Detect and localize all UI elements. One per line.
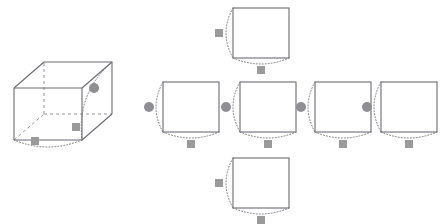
net-face-middle-1[interactable]	[144, 82, 219, 148]
net-face-middle-1-bottom-square-marker	[187, 140, 195, 148]
net-face-bottom-bottom-square-marker	[257, 216, 265, 224]
net-face-top-outline[interactable]	[233, 8, 289, 58]
net-face-middle-2-bottom-arc	[240, 132, 296, 138]
cube-arc-bottom	[14, 140, 82, 147]
net-face-middle-4-bottom-square-marker	[405, 140, 413, 148]
net-face-middle-3-bottom-arc	[315, 132, 371, 138]
wireframe-cube-group	[14, 62, 112, 147]
cube-hidden-edge-2	[14, 114, 44, 140]
net-face-bottom[interactable]	[215, 158, 289, 224]
cube-net-group	[144, 8, 437, 224]
net-face-middle-1-left-arc	[156, 82, 163, 132]
cube-arc-right	[81, 62, 112, 140]
net-face-middle-2[interactable]	[221, 82, 296, 148]
net-face-bottom-bottom-arc	[233, 208, 289, 214]
net-face-bottom-left-arc	[226, 158, 233, 208]
net-face-middle-1-bottom-arc	[163, 132, 219, 138]
net-face-middle-1-outline[interactable]	[163, 82, 219, 132]
net-face-middle-2-bottom-square-marker	[264, 140, 272, 148]
net-face-bottom-outline[interactable]	[233, 158, 289, 208]
cube-square-marker-right	[72, 123, 80, 131]
cube-net-diagram	[0, 0, 447, 224]
net-face-middle-4-left-arc	[374, 82, 381, 132]
net-face-top[interactable]	[215, 8, 289, 74]
net-face-middle-2-left-circle-marker	[221, 102, 231, 112]
cube-edge-6	[14, 62, 44, 88]
cube-edge-8	[82, 114, 112, 140]
net-face-middle-3-left-circle-marker	[296, 102, 306, 112]
net-face-middle-4-bottom-arc	[381, 132, 437, 138]
net-face-middle-3-bottom-square-marker	[339, 140, 347, 148]
diagram-canvas	[0, 0, 447, 224]
net-face-middle-4-outline[interactable]	[381, 82, 437, 132]
net-face-middle-2-left-arc	[233, 82, 240, 132]
net-face-top-left-arc	[226, 8, 233, 58]
cube-circle-marker	[89, 83, 99, 93]
net-face-top-bottom-arc	[233, 58, 289, 64]
net-face-middle-3-left-arc	[308, 82, 315, 132]
net-face-middle-2-outline[interactable]	[240, 82, 296, 132]
net-face-middle-1-left-circle-marker	[144, 102, 154, 112]
net-face-middle-4-left-circle-marker	[362, 102, 372, 112]
net-face-bottom-left-square-marker	[215, 179, 223, 187]
net-face-top-bottom-square-marker	[257, 66, 265, 74]
net-face-middle-4[interactable]	[362, 82, 437, 148]
net-face-middle-3[interactable]	[296, 82, 371, 148]
cube-square-marker-bottom	[31, 137, 39, 145]
net-face-top-left-square-marker	[215, 29, 223, 37]
